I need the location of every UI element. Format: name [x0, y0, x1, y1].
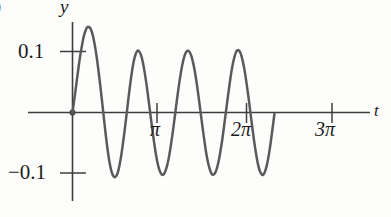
y-axis-label: y: [60, 0, 68, 16]
figure-panel: ) y t 0.1 −0.1 π 2π 3π: [0, 0, 391, 217]
x-axis-label: t: [374, 102, 379, 119]
y-tick-label-negative: −0.1: [8, 162, 46, 183]
x-tick-label-pi: π: [150, 119, 160, 139]
oscillation-curve: [73, 27, 275, 177]
x-tick-label-3pi: 3π: [315, 119, 335, 139]
x-tick-label-2pi: 2π: [231, 119, 251, 139]
y-tick-label-positive: 0.1: [18, 41, 44, 62]
plot-canvas: [0, 0, 391, 217]
panel-label: ): [0, 0, 1, 19]
